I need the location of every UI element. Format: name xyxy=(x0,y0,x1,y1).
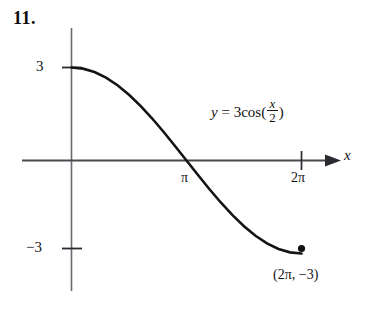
y-tick-label-neg3: −3 xyxy=(26,239,42,256)
x-axis-arrowhead xyxy=(325,155,341,167)
fraction-numerator: x xyxy=(267,97,278,110)
graph-canvas xyxy=(0,0,381,309)
equation-lhs: y xyxy=(211,104,218,120)
fraction-denominator: 2 xyxy=(267,110,278,124)
equation-annotation: y = 3cos(x2) xyxy=(211,97,284,125)
x-tick-label-pi: π xyxy=(181,170,188,186)
equation-fraction: x2 xyxy=(267,97,278,125)
endpoint-marker xyxy=(298,245,305,252)
x-tick-label-2pi: 2π xyxy=(291,170,305,186)
y-tick-label-3: 3 xyxy=(36,58,44,75)
trig-graph-figure: 11. 3 −3 π 2π x y = 3cos(x2) (2π, −3) xyxy=(0,0,381,309)
equation-equals: = xyxy=(221,104,229,120)
endpoint-coordinate-label: (2π, −3) xyxy=(273,267,318,283)
equation-function: 3cos( xyxy=(234,104,267,120)
x-axis-label: x xyxy=(344,147,351,164)
equation-closing-paren: ) xyxy=(279,104,284,120)
